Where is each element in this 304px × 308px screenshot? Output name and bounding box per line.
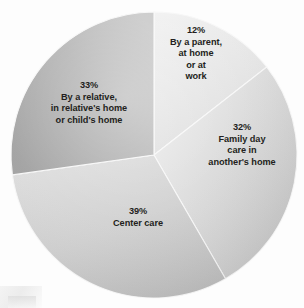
pie-chart-figure: 12% By a parent, at home or at work 32% … <box>0 0 304 308</box>
slice-percent-family-day-care: 32% <box>186 122 298 134</box>
slice-desc-family-day-care-line2: care in <box>186 145 298 157</box>
slice-label-by-a-relative: 33% By a relative, in relative's home or… <box>22 80 156 126</box>
slice-desc-center-care-line1: Center care <box>82 218 194 230</box>
slice-desc-by-a-parent-line4: work <box>153 71 239 83</box>
slice-desc-by-a-parent-line3: or at <box>153 60 239 72</box>
slice-label-center-care: 39% Center care <box>82 206 194 229</box>
slice-percent-center-care: 39% <box>82 206 194 218</box>
slice-desc-by-a-relative-line3: or child's home <box>22 115 156 127</box>
slice-desc-by-a-parent-line2: at home <box>153 48 239 60</box>
slice-percent-by-a-parent: 12% <box>153 25 239 37</box>
slice-desc-by-a-relative-line1: By a relative, <box>22 92 156 104</box>
slice-label-family-day-care: 32% Family day care in another's home <box>186 122 298 168</box>
slice-desc-family-day-care-line1: Family day <box>186 134 298 146</box>
slice-percent-by-a-relative: 33% <box>22 80 156 92</box>
slice-label-by-a-parent: 12% By a parent, at home or at work <box>153 25 239 83</box>
slice-desc-by-a-parent-line1: By a parent, <box>153 37 239 49</box>
slice-desc-by-a-relative-line2: in relative's home <box>22 103 156 115</box>
slice-desc-family-day-care-line3: another's home <box>186 157 298 169</box>
